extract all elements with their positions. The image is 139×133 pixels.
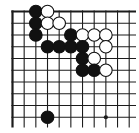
black-stone <box>88 64 101 77</box>
white-stone <box>41 17 54 30</box>
black-stone <box>41 111 54 124</box>
board-grid-lines <box>11 10 136 127</box>
black-stone <box>30 17 43 30</box>
black-stone <box>53 40 66 53</box>
black-stone <box>30 5 43 18</box>
black-stone <box>41 40 54 53</box>
black-stone <box>76 64 89 77</box>
black-stone <box>30 29 43 42</box>
black-stone <box>65 40 78 53</box>
white-stone <box>88 29 101 42</box>
go-board[interactable] <box>0 0 139 133</box>
white-stone <box>53 17 66 30</box>
board-star-points <box>104 115 108 119</box>
black-stone <box>65 29 78 42</box>
go-diagram-screenshot <box>0 0 139 133</box>
white-stone <box>88 52 101 65</box>
star-point <box>104 115 108 119</box>
white-stone <box>100 64 113 77</box>
white-stone <box>41 5 54 18</box>
white-stone <box>100 29 113 42</box>
white-stone <box>76 29 89 42</box>
white-stone <box>100 40 113 53</box>
black-stone <box>76 40 89 53</box>
black-stone <box>76 52 89 65</box>
